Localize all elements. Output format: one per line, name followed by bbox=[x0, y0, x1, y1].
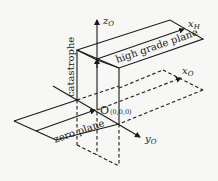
x-zero-label: xO bbox=[182, 65, 194, 78]
zero-plane-label: zero plane bbox=[52, 117, 106, 145]
diagram-canvas: zO xH xO yO O(0,0,0) catastrophe high gr… bbox=[0, 0, 218, 181]
x-zero-axis-arrow bbox=[97, 78, 181, 110]
coordinate-diagram: zO xH xO yO O(0,0,0) catastrophe high gr… bbox=[0, 0, 218, 181]
origin-label: O(0,0,0) bbox=[100, 104, 132, 117]
z-axis-label: zO bbox=[102, 15, 114, 28]
dashed-extension bbox=[77, 70, 203, 124]
high-grade-plane-label: high grade plane bbox=[114, 26, 199, 64]
high-grade-plane bbox=[77, 20, 203, 68]
catastrophe-label: catastrophe bbox=[65, 37, 76, 97]
y-axis-label: yO bbox=[144, 133, 157, 146]
